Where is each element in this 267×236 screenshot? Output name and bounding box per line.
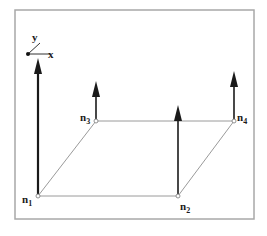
arrowhead-icon — [174, 105, 182, 121]
y-axis-line — [28, 43, 40, 54]
axes-origin-dot — [26, 52, 30, 56]
node-marker — [232, 119, 236, 123]
coordinate-axes: x y — [26, 31, 54, 60]
node-label: n4 — [237, 111, 247, 126]
plate-edge — [38, 121, 96, 196]
node-marker — [36, 194, 40, 198]
nodal-vector-arrow-n3 — [92, 81, 100, 121]
plate-diagram: x y n1n2n3n4 — [0, 0, 267, 236]
x-axis-label: x — [48, 48, 54, 60]
arrowhead-icon — [230, 71, 238, 87]
node-marker — [176, 194, 180, 198]
node-n1: n1 — [22, 193, 40, 208]
node-marker — [94, 119, 98, 123]
nodal-arrows — [34, 58, 238, 196]
nodal-vector-arrow-n2 — [174, 105, 182, 196]
nodal-vector-arrow-n1 — [34, 58, 42, 196]
plate-edge — [178, 121, 234, 196]
frame — [15, 10, 254, 219]
y-axis-label: y — [32, 31, 38, 43]
node-n2: n2 — [176, 194, 190, 215]
node-label: n1 — [22, 193, 32, 208]
plate-edges — [38, 121, 234, 196]
plate-nodes: n1n2n3n4 — [22, 111, 247, 215]
node-label: n3 — [80, 111, 90, 126]
arrowhead-icon — [34, 58, 42, 74]
node-label: n2 — [180, 200, 190, 215]
arrowhead-icon — [92, 81, 100, 97]
